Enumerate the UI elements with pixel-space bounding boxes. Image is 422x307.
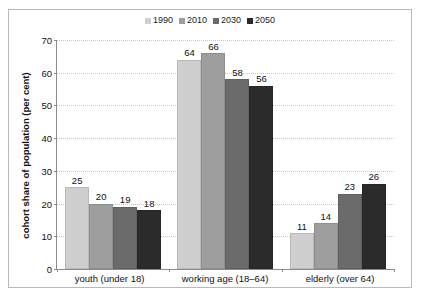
plot-area: 010203040506070 252019186466585611142326 [56, 40, 394, 270]
bar-value-label: 14 [314, 212, 338, 222]
bar[interactable] [338, 194, 362, 269]
legend-entry-1990: 1990 [145, 16, 173, 25]
y-axis-tick-label: 50 [41, 100, 52, 111]
bar[interactable] [201, 53, 225, 269]
bar[interactable] [113, 207, 137, 269]
x-axis-category-label: working age (18–64) [182, 273, 269, 284]
bar[interactable] [290, 233, 314, 269]
x-axis-tick-mark [394, 269, 395, 272]
bar-slot: 64 [177, 40, 201, 269]
bar-groups: 252019186466585611142326 [57, 40, 394, 269]
legend-swatch-1990 [145, 18, 151, 24]
bar[interactable] [314, 223, 338, 269]
bar[interactable] [137, 210, 161, 269]
bar-slot: 25 [65, 40, 89, 269]
bar-slot: 58 [225, 40, 249, 269]
legend-swatch-2030 [213, 18, 219, 24]
x-axis-tick-mark [169, 269, 170, 272]
bar[interactable] [362, 184, 386, 269]
bar-group: 64665856 [177, 40, 273, 269]
legend-label-2010: 2010 [187, 16, 207, 25]
bar-value-label: 20 [89, 192, 113, 202]
bar-slot: 26 [362, 40, 386, 269]
bar-slot: 20 [89, 40, 113, 269]
bar[interactable] [89, 204, 113, 269]
bar-slot: 19 [113, 40, 137, 269]
bar-value-label: 11 [290, 222, 314, 232]
legend-label-2030: 2030 [221, 16, 241, 25]
bar-slot: 56 [249, 40, 273, 269]
legend-entry-2030: 2030 [213, 16, 241, 25]
x-axis-category-labels: youth (under 18)working age (18–64)elder… [56, 273, 393, 284]
y-axis-tick-label: 40 [41, 133, 52, 144]
bar-value-label: 56 [249, 74, 273, 84]
y-axis-tick-label: 30 [41, 165, 52, 176]
bar-slot: 66 [201, 40, 225, 269]
chart-frame: 1990 2010 2030 2050 cohort share of popu… [8, 9, 412, 288]
legend-entry-2050: 2050 [247, 16, 275, 25]
legend-label-1990: 1990 [153, 16, 173, 25]
bar-value-label: 26 [362, 172, 386, 182]
y-axis-tick-label: 60 [41, 67, 52, 78]
y-axis-tick-label: 0 [47, 264, 52, 275]
x-axis-tick-mark [282, 269, 283, 272]
bar[interactable] [65, 187, 89, 269]
legend-entry-2010: 2010 [179, 16, 207, 25]
bar-value-label: 64 [177, 48, 201, 58]
bar-group: 11142326 [290, 40, 386, 269]
x-axis-category-label: elderly (over 64) [306, 273, 375, 284]
bar-value-label: 23 [338, 182, 362, 192]
bar-group: 25201918 [65, 40, 161, 269]
bar-slot: 14 [314, 40, 338, 269]
bar[interactable] [177, 60, 201, 269]
bar-slot: 11 [290, 40, 314, 269]
legend-swatch-2050 [247, 18, 253, 24]
x-axis-tick-mark [57, 269, 58, 272]
bar-value-label: 18 [137, 199, 161, 209]
y-axis-tick-label: 10 [41, 231, 52, 242]
legend-swatch-2010 [179, 18, 185, 24]
chart-legend: 1990 2010 2030 2050 [9, 16, 411, 25]
y-axis-tick-label: 20 [41, 198, 52, 209]
bar-value-label: 25 [65, 176, 89, 186]
bar-slot: 18 [137, 40, 161, 269]
bar-value-label: 19 [113, 195, 137, 205]
legend-label-2050: 2050 [255, 16, 275, 25]
bar[interactable] [249, 86, 273, 269]
y-axis-title: cohort share of population (per cent) [20, 46, 31, 266]
y-axis-tick-label: 70 [41, 35, 52, 46]
x-axis-category-label: youth (under 18) [75, 273, 145, 284]
bar[interactable] [225, 79, 249, 269]
bar-value-label: 66 [201, 42, 225, 52]
bar-value-label: 58 [225, 68, 249, 78]
bar-slot: 23 [338, 40, 362, 269]
